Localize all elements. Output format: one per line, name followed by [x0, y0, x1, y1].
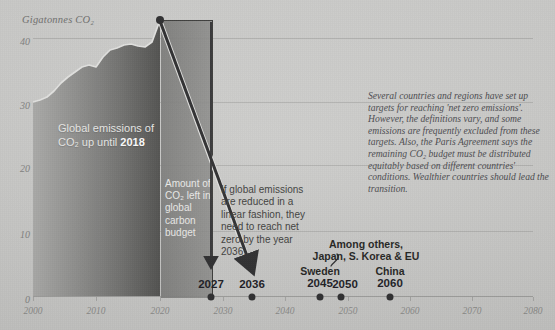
x-tick-2060: 2060 [401, 306, 420, 316]
timeline-dot-2036[interactable] [249, 294, 256, 301]
peak-2018-dot [156, 16, 164, 24]
paris-agreement-note: Several countries and regions have set u… [368, 90, 550, 194]
carbon-budget-box [161, 20, 213, 298]
x-tick-2030: 2030 [214, 306, 233, 316]
x-tick-2050: 2050 [339, 306, 358, 316]
x-tickmark-2040 [285, 297, 286, 301]
timeline-dot-2045[interactable] [317, 294, 324, 301]
timeline-dot-2050[interactable] [338, 294, 345, 301]
target-2050-year: 2050 [332, 278, 358, 291]
among-others-line2: Japan, S. Korea & EU [313, 250, 420, 262]
emissions-area-path [33, 20, 160, 296]
area-caption: Global emissions of CO₂ up until 2018 [58, 121, 176, 149]
x-tickmark-2080 [533, 297, 534, 301]
x-tick-2020: 2020 [151, 306, 170, 316]
x-tickmark-2060 [410, 297, 411, 301]
area-caption-line2-prefix: CO₂ up until [58, 136, 120, 148]
target-2027[interactable]: 2027 [198, 278, 224, 291]
x-tickmark-2070 [472, 297, 473, 301]
target-china-year: 2060 [375, 277, 404, 290]
timeline-dot-2027[interactable] [208, 294, 215, 301]
x-tickmark-2010 [96, 297, 97, 301]
x-tickmark-2020 [160, 297, 161, 301]
infographic-canvas: Gigatonnes CO₂ 40 30 20 10 0 Global emis… [0, 0, 555, 330]
target-sweden-name: Sweden [300, 265, 340, 277]
among-others-line1: Among others, [329, 238, 403, 250]
x-tick-2010: 2010 [87, 306, 106, 316]
x-tick-2040: 2040 [276, 306, 295, 316]
timeline-dot-2060[interactable] [387, 294, 394, 301]
x-tickmark-2050 [348, 297, 349, 301]
target-2036-year: 2036 [239, 278, 265, 291]
target-2036[interactable]: 2036 [239, 278, 265, 291]
x-tickmark-2000 [33, 297, 34, 301]
target-china[interactable]: China 2060 [375, 265, 404, 290]
area-caption-line1: Global emissions of [58, 122, 154, 134]
x-tick-2070: 2070 [463, 306, 482, 316]
target-among-others-year[interactable]: 2050 [332, 278, 358, 291]
target-among-others-label: Among others, Japan, S. Korea & EU [313, 239, 420, 262]
linear-reduction-note: If global emissions are reduced in a lin… [221, 184, 317, 258]
target-2027-year: 2027 [198, 278, 224, 291]
x-tick-2000: 2000 [24, 306, 43, 316]
target-china-name: China [375, 265, 404, 277]
x-tick-2080: 2080 [524, 306, 543, 316]
area-caption-year: 2018 [120, 136, 144, 148]
x-tickmark-2030 [223, 297, 224, 301]
carbon-budget-label: Amount of CO₂ left in global carbon budg… [165, 178, 213, 239]
